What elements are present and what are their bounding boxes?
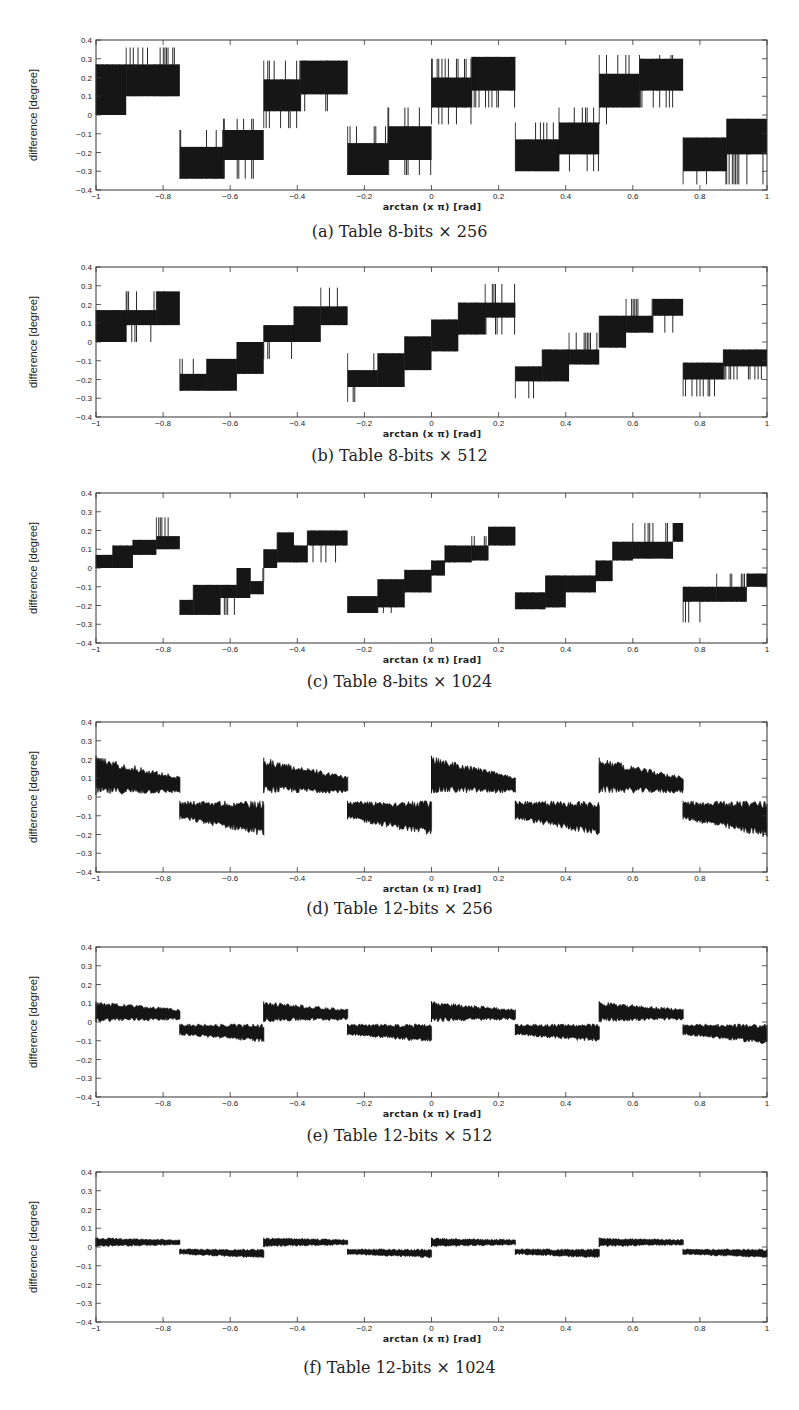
subplot-f: −0.4−0.3−0.2−0.100.10.20.30.4−1−0.8−0.6−…: [0, 0, 799, 1400]
caption-f: (f) Table 12-bits × 1024: [0, 1358, 799, 1377]
x-axis-label: arctan (x π) [rad]: [383, 1333, 482, 1344]
chart-plot-f: −0.4−0.3−0.2−0.100.10.20.30.4−1−0.8−0.6−…: [0, 0, 799, 1400]
data-series: [96, 1238, 767, 1258]
x-tick-label: 0.2: [493, 1324, 505, 1333]
x-tick-label: −1: [91, 1324, 101, 1333]
x-tick-label: 0.6: [627, 1324, 639, 1333]
y-axis-label: difference [degree]: [27, 1201, 39, 1293]
y-tick-label: 0.3: [81, 1187, 93, 1196]
x-tick-label: 0.4: [560, 1324, 572, 1333]
y-tick-label: 0.1: [81, 1224, 93, 1233]
y-tick-label: 0.2: [81, 1206, 93, 1215]
y-tick-label: 0.4: [81, 1168, 93, 1177]
y-tick-label: 0: [88, 1243, 93, 1252]
x-tick-label: 1: [765, 1324, 770, 1333]
x-tick-label: −0.6: [222, 1324, 238, 1333]
x-tick-label: 0: [429, 1324, 434, 1333]
x-tick-label: −0.2: [357, 1324, 373, 1333]
x-tick-label: −0.8: [155, 1324, 171, 1333]
x-tick-label: 0.8: [694, 1324, 706, 1333]
y-tick-label: −0.1: [76, 1262, 92, 1271]
x-tick-label: −0.4: [289, 1324, 305, 1333]
y-tick-label: −0.4: [76, 1318, 92, 1327]
plot-area: −0.4−0.3−0.2−0.100.10.20.30.4−1−0.8−0.6−…: [27, 1168, 770, 1344]
y-tick-label: −0.2: [76, 1281, 92, 1290]
y-tick-label: −0.3: [76, 1299, 92, 1308]
